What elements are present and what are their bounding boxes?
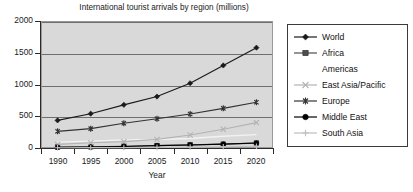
- data-point-diamond: [88, 111, 93, 116]
- y-axis-tick-label: 500: [3, 111, 33, 120]
- legend-item-east-asia-pacific[interactable]: East Asia/Pacific: [288, 77, 407, 93]
- x-axis-tick-label: 1990: [41, 156, 75, 166]
- legend-item-africa[interactable]: Africa: [288, 45, 407, 61]
- x-axis-tick: [174, 149, 175, 154]
- x-axis-tick-label: 2015: [206, 156, 240, 166]
- x-axis-tick: [240, 149, 241, 154]
- x-axis-tick: [74, 149, 75, 154]
- series-plot: [41, 21, 273, 148]
- legend-label: Africa: [322, 48, 344, 58]
- x-axis-tick-label: 1995: [74, 156, 108, 166]
- y-axis-tick-label: 1500: [3, 48, 33, 57]
- x-axis-title: Year: [41, 170, 273, 180]
- legend-label: Middle East: [322, 112, 367, 122]
- x-axis-tick: [140, 149, 141, 154]
- x-axis-tick: [273, 149, 274, 154]
- y-axis-tick-label: 2000: [3, 16, 33, 25]
- data-point-circle: [303, 114, 309, 120]
- legend-label: World: [322, 32, 344, 42]
- chart-title: International tourist arrivals by region…: [44, 3, 284, 13]
- legend-item-world[interactable]: World: [288, 29, 407, 45]
- legend-marker-diamond-icon: [293, 31, 318, 43]
- data-point-diamond: [303, 34, 309, 40]
- x-axis-tick-label: 2000: [107, 156, 141, 166]
- x-axis-tick-label: 2010: [173, 156, 207, 166]
- data-point-diamond: [121, 102, 126, 107]
- chart-legend: WorldAfricaAmericasEast Asia/PacificEuro…: [287, 24, 408, 147]
- x-axis-tick-label: 2020: [239, 156, 273, 166]
- series-world: [55, 45, 259, 123]
- data-point-diamond: [154, 94, 159, 99]
- legend-label: Europe: [322, 96, 350, 106]
- series-line: [58, 48, 257, 121]
- x-axis-tick: [41, 149, 42, 154]
- legend-marker-circle-icon: [293, 111, 318, 123]
- series-europe: [55, 99, 258, 134]
- y-axis-tick-labels: 0500100015002000: [0, 0, 33, 192]
- x-axis-tick: [107, 149, 108, 154]
- legend-item-middle-east[interactable]: Middle East: [288, 109, 407, 125]
- data-point-diamond: [254, 45, 259, 50]
- y-axis-tick-label: 0: [3, 143, 33, 152]
- legend-label: Americas: [322, 64, 358, 74]
- data-point-diamond: [221, 63, 226, 68]
- legend-item-europe[interactable]: Europe: [288, 93, 407, 109]
- legend-item-south-asia[interactable]: South Asia: [288, 125, 407, 141]
- data-point-plus: [302, 130, 308, 136]
- legend-label: East Asia/Pacific: [322, 80, 386, 90]
- legend-marker-x-icon: [293, 79, 318, 91]
- legend-marker-square-icon: [293, 47, 318, 59]
- legend-marker-plus-icon: [293, 127, 318, 139]
- legend-marker-blank-icon: [293, 63, 318, 75]
- chart-figure: International tourist arrivals by region…: [0, 0, 413, 192]
- legend-marker-asterisk-icon: [293, 95, 318, 107]
- legend-label: South Asia: [322, 128, 363, 138]
- series-line: [58, 135, 257, 142]
- legend-item-americas[interactable]: Americas: [288, 61, 407, 77]
- series-americas: [58, 135, 257, 142]
- x-axis-tick: [207, 149, 208, 154]
- data-point-diamond: [188, 81, 193, 86]
- data-point-square: [303, 50, 308, 55]
- y-axis-tick-label: 1000: [3, 80, 33, 89]
- x-axis-tick-label: 2005: [140, 156, 174, 166]
- data-point-diamond: [55, 118, 60, 123]
